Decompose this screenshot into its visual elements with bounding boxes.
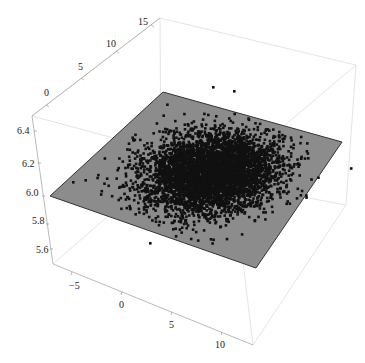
z-tick-5.6: 5.6 bbox=[36, 244, 49, 255]
x-tick-0: 0 bbox=[119, 299, 124, 310]
x-tick-10: 10 bbox=[215, 339, 225, 350]
z-tick-6.0: 6.0 bbox=[26, 187, 39, 198]
y-tick-5: 5 bbox=[78, 61, 83, 72]
y-tick-15: 15 bbox=[138, 16, 148, 27]
y-axis: 0 5 10 15 bbox=[32, 16, 160, 116]
3d-scatter-plot: 0 5 10 15 6.4 6.2 6.0 5.8 5.6 −5 0 5 10 bbox=[0, 0, 365, 363]
x-axis: −5 0 5 10 bbox=[53, 264, 253, 350]
y-tick-10: 10 bbox=[106, 38, 116, 49]
z-tick-5.8: 5.8 bbox=[32, 215, 45, 226]
z-axis: 6.4 6.2 6.0 5.8 5.6 bbox=[17, 116, 53, 264]
y-tick-0: 0 bbox=[44, 87, 49, 98]
z-tick-6.4: 6.4 bbox=[17, 125, 30, 136]
x-tick-5: 5 bbox=[169, 319, 174, 330]
z-tick-6.2: 6.2 bbox=[22, 158, 35, 169]
x-tick-neg5: −5 bbox=[69, 280, 80, 291]
